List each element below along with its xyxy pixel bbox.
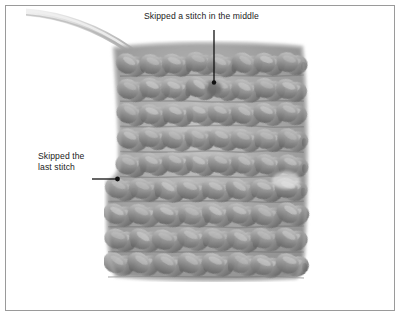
annotation-label-last-line2: last stitch: [38, 162, 85, 173]
annotation-label-last: Skipped the last stitch: [38, 151, 85, 173]
crochet-swatch: [104, 40, 312, 282]
figure-container: Skipped a stitch in the middle Skipped t…: [0, 0, 402, 320]
annotation-label-last-line1: Skipped the: [38, 151, 85, 162]
annotation-label-middle: Skipped a stitch in the middle: [144, 11, 259, 22]
crochet-swatch-graphic: [104, 40, 312, 282]
